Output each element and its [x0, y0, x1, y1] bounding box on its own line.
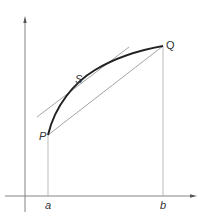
diagram-canvas: P Q S a b	[0, 0, 209, 222]
tick-label-b: b	[160, 199, 166, 211]
point-label-q: Q	[166, 39, 175, 51]
y-axis-arrow-icon	[23, 16, 26, 23]
chord-pq	[48, 46, 163, 135]
tick-label-a: a	[45, 199, 51, 211]
point-label-s: S	[75, 73, 83, 85]
tangent-line-s	[37, 47, 129, 117]
x-axis-arrow-icon	[190, 194, 197, 197]
point-label-p: P	[39, 130, 47, 142]
mean-value-theorem-diagram: P Q S a b	[0, 0, 209, 222]
